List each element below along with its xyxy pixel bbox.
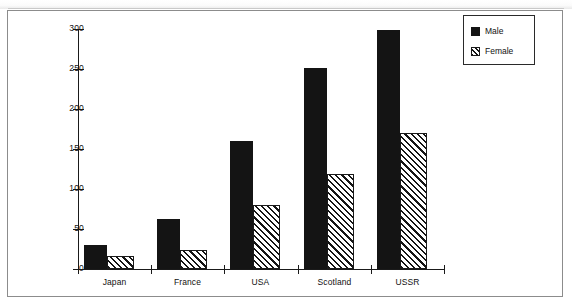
chart-legend: Male Female	[463, 15, 535, 65]
y-axis-tick-label: 300	[50, 23, 84, 33]
bar-france-male[interactable]	[157, 219, 180, 269]
bar-scotland-male[interactable]	[304, 68, 327, 269]
bar-france-female[interactable]	[180, 250, 207, 269]
legend-swatch-female-icon	[471, 47, 480, 56]
x-axis-label-ussr: USSR	[371, 277, 444, 287]
bar-ussr-male[interactable]	[377, 30, 400, 269]
x-axis-label-japan: Japan	[78, 277, 151, 287]
x-axis-tick	[444, 265, 445, 274]
bar-scotland-female[interactable]	[327, 174, 354, 269]
y-axis-tick-label-wrap: 100	[30, 189, 84, 190]
x-axis-tick	[78, 265, 79, 274]
legend-item-female[interactable]: Female	[471, 42, 534, 60]
x-axis-tick	[298, 265, 299, 274]
legend-label-male: Male	[485, 26, 503, 36]
legend-item-male[interactable]: Male	[471, 22, 534, 40]
y-axis-tick-label-wrap: 200	[30, 109, 84, 110]
bar-japan-male[interactable]	[84, 245, 107, 269]
legend-swatch-male-icon	[471, 27, 480, 36]
x-axis-label-usa: USA	[224, 277, 297, 287]
y-axis-tick-label: 250	[50, 63, 84, 73]
x-axis-label-france: France	[151, 277, 224, 287]
x-axis-tick	[151, 265, 152, 274]
y-axis-tick-label: 200	[50, 103, 84, 113]
x-axis-tick	[371, 265, 372, 274]
x-axis-line	[78, 269, 444, 270]
legend-label-female: Female	[485, 46, 513, 56]
y-axis-tick-label-wrap: 250	[30, 69, 84, 70]
y-axis-tick-label: 150	[50, 143, 84, 153]
bar-chart: 050100150200250300 JapanFranceUSAScotlan…	[0, 0, 572, 305]
y-axis-tick-label: 100	[50, 183, 84, 193]
bar-japan-female[interactable]	[107, 256, 134, 269]
bar-usa-male[interactable]	[230, 141, 253, 269]
y-axis-tick-label-wrap: 300	[30, 29, 84, 30]
bar-ussr-female[interactable]	[400, 133, 427, 269]
x-axis-label-scotland: Scotland	[298, 277, 371, 287]
y-axis-tick-label-wrap: 0	[30, 269, 84, 270]
y-axis-tick-label: 50	[50, 223, 84, 233]
x-axis-tick	[224, 265, 225, 274]
y-axis-tick-label-wrap: 150	[30, 149, 84, 150]
y-axis-tick-label-wrap: 50	[30, 229, 84, 230]
bar-usa-female[interactable]	[253, 205, 280, 269]
